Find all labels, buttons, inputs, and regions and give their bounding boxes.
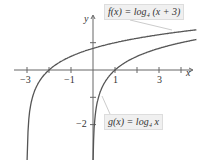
x-tick-label: −3 [20, 75, 31, 85]
x-tick-label: −1 [64, 75, 75, 85]
f-function-label: f(x) = log₄ (x + 3) [104, 4, 184, 20]
y-tick-label: −2 [76, 119, 87, 129]
x-tick-label: 1 [113, 75, 118, 85]
g-label-pointer [102, 96, 110, 114]
x-axis-label: x [186, 68, 190, 78]
chart: x y −3 −1 1 3 −2 f(x) = log₄ (x + 3) g(x… [0, 0, 199, 164]
g-curve [93, 40, 196, 161]
g-function-label: g(x) = log₄ x [104, 114, 163, 130]
f-label-pointer [130, 20, 172, 30]
y-axis-label: y [84, 14, 88, 24]
x-tick-label: 3 [157, 75, 162, 85]
f-curve [27, 30, 196, 160]
